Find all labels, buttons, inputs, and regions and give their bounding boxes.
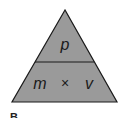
top-variable: p: [60, 36, 70, 53]
figure-label: B: [10, 111, 18, 118]
bottom-right-variable: v: [85, 75, 94, 92]
formula-triangle-figure: p m × v B: [0, 0, 119, 118]
bottom-left-variable: m: [33, 75, 46, 92]
multiply-operator: ×: [61, 75, 69, 91]
